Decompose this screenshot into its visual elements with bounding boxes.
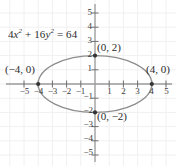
y-tick-label--2: −2 (80, 105, 93, 115)
y-tick-label--4: −4 (80, 133, 93, 143)
x-tick-label-5: 5 (161, 86, 172, 96)
y-tick-label-1: 1 (82, 63, 92, 73)
y-tick-label-2: 2 (82, 49, 92, 59)
point-label-covertex-bottom: (0, −2) (97, 110, 127, 122)
equation-rhs: 64 (66, 28, 77, 40)
x-tick-label-4: 4 (146, 86, 157, 96)
equation-annotation: 4x2 + 16y2 = 64 (8, 27, 77, 40)
x-tick-label--3: −3 (45, 86, 60, 96)
point-marker-covertex-top (93, 54, 97, 58)
y-tick-label-5: 5 (82, 7, 92, 17)
x-tick-label--2: −2 (59, 86, 74, 96)
equation-plus: + (25, 28, 31, 40)
y-tick-label--1: −1 (80, 91, 93, 101)
point-label-vertex-right: (4, 0) (146, 63, 170, 75)
y-tick-label--3: −3 (80, 119, 93, 129)
ellipse-graph-figure: 4x2 + 16y2 = 64 (−4, 0) (4, 0) (0, 2) (0… (0, 0, 176, 166)
equation-equals: = (57, 28, 63, 40)
equation-coef-y: 16 (34, 28, 45, 40)
y-tick-label-4: 4 (82, 21, 92, 31)
point-label-covertex-top: (0, 2) (97, 41, 121, 53)
y-tick-label-3: 3 (82, 35, 92, 45)
equation-exp-x: 2 (19, 27, 23, 35)
y-tick-label--5: −5 (80, 147, 93, 157)
x-tick-label-2: 2 (118, 86, 129, 96)
x-tick-label-3: 3 (132, 86, 143, 96)
point-label-vertex-left: (−4, 0) (5, 63, 35, 75)
x-tick-label-1: 1 (104, 86, 115, 96)
x-tick-label--4: −4 (31, 86, 46, 96)
x-tick-label--5: −5 (17, 86, 32, 96)
equation-exp-y: 2 (50, 27, 54, 35)
